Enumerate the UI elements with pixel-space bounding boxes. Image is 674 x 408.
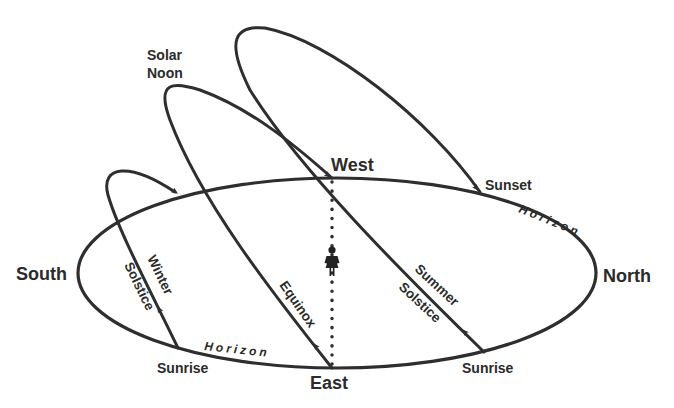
east-label: East	[310, 373, 348, 393]
north-label: North	[603, 266, 651, 286]
horizon-label-back: Horizon	[517, 202, 583, 240]
summer-sunrise-label: Sunrise	[462, 360, 514, 376]
south-label: South	[16, 264, 67, 284]
sun-path-diagram: West East South North Solar Noon Sunrise…	[0, 0, 674, 408]
solar-noon-label-line2: Noon	[147, 65, 183, 81]
winter-sunrise-label: Sunrise	[157, 360, 209, 376]
west-label: West	[331, 155, 374, 175]
solar-noon-label-line1: Solar	[147, 47, 183, 63]
winter-solstice-path	[107, 171, 178, 348]
sunset-label: Sunset	[485, 177, 532, 193]
